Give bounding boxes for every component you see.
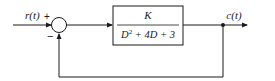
output-label: c(t) [226,9,242,22]
plus-sign: + [44,11,50,22]
denominator-rest: + 4D + 3 [132,29,175,40]
summing-junction [52,18,67,33]
block-numerator: K [143,9,152,21]
block-diagram: r(t) + − K D2 + 4D + 3 c(t) [0,0,275,81]
block-denominator: D2 + 4D + 3 [120,28,175,40]
input-label: r(t) [25,9,40,22]
minus-sign: − [47,30,53,42]
